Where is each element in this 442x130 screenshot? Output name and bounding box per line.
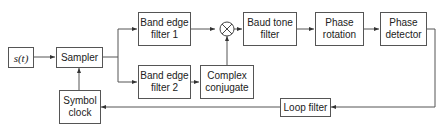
phase-detector-line2: detector (385, 29, 421, 41)
symbol-clock-line2: clock (69, 107, 92, 119)
symbol-clock-line1: Symbol (63, 95, 96, 107)
phase-detector-line1: Phase (389, 17, 417, 29)
complex-conjugate-line2: conjugate (205, 82, 248, 94)
multiplier-icon (220, 22, 234, 36)
band-edge-filter-2-line2: filter 2 (151, 82, 178, 94)
complex-conjugate-line1: Complex (207, 70, 246, 82)
baud-tone-filter-line1: Baud tone (247, 17, 293, 29)
phase-detector-block: Phase detector (380, 12, 427, 46)
loop-filter-label: Loop filter (284, 102, 328, 114)
band-edge-filter-2-line1: Band edge (140, 70, 188, 82)
input-signal-label: s(t) (14, 52, 29, 64)
band-edge-filter-2-block: Band edge filter 2 (138, 65, 191, 99)
input-signal-block: s(t) (8, 47, 34, 68)
phase-rotation-line2: rotation (323, 29, 356, 41)
sampler-label: Sampler (61, 52, 98, 64)
phase-rotation-block: Phase rotation (315, 12, 364, 46)
band-edge-filter-1-line2: filter 1 (151, 29, 178, 41)
phase-rotation-line1: Phase (325, 17, 353, 29)
band-edge-filter-1-line1: Band edge (140, 17, 188, 29)
sampler-block: Sampler (56, 47, 103, 68)
baud-tone-filter-line2: filter (261, 29, 280, 41)
baud-tone-filter-block: Baud tone filter (243, 12, 297, 46)
symbol-clock-block: Symbol clock (59, 90, 101, 124)
complex-conjugate-block: Complex conjugate (200, 65, 254, 99)
loop-filter-block: Loop filter (280, 98, 331, 117)
band-edge-filter-1-block: Band edge filter 1 (138, 12, 191, 46)
